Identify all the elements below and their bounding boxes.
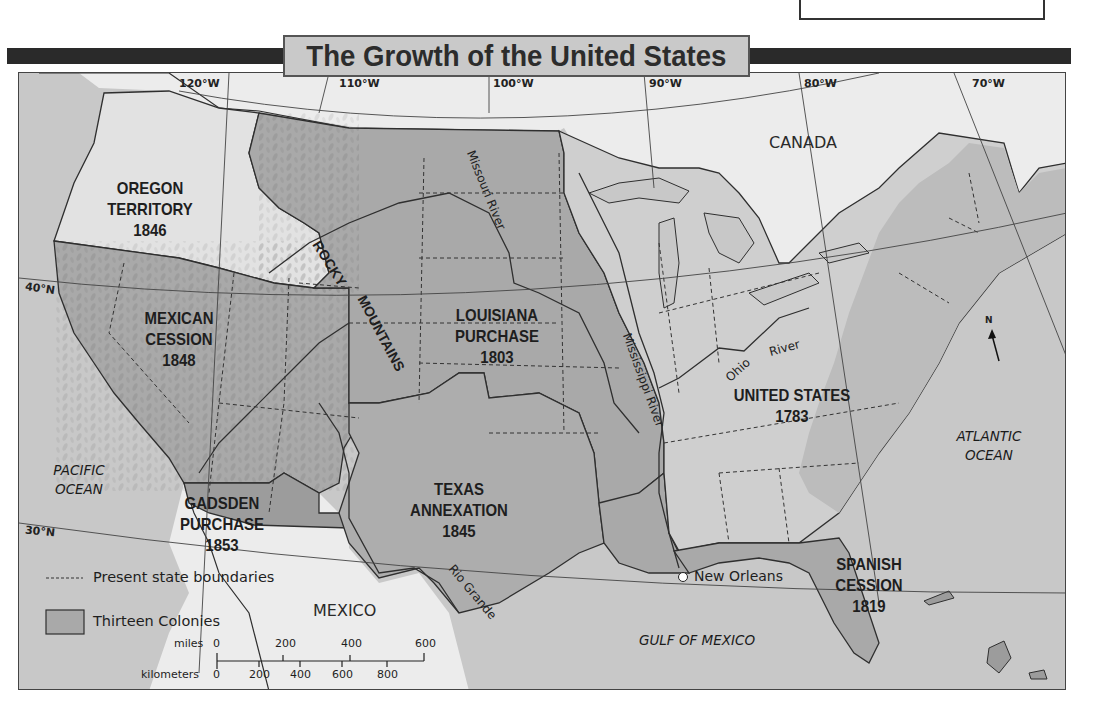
map-frame: 120°W 110°W 100°W 90°W 80°W 70°W 40°N 30… xyxy=(18,72,1066,690)
map-title: The Growth of the United States xyxy=(306,39,726,73)
region-label-spanish-cession: SPANISH CESSION 1819 xyxy=(825,554,913,617)
new-orleans-city-dot xyxy=(678,572,688,582)
lon-80w: 80°W xyxy=(804,77,837,90)
region-label-texas: TEXAS ANNEXATION 1845 xyxy=(402,479,516,542)
label-pacific-ocean: PACIFIC OCEAN xyxy=(39,461,119,499)
label-mexico: MEXICO xyxy=(313,601,376,620)
legend-item-thirteen-colonies: Thirteen Colonies xyxy=(93,613,220,629)
scale-km-600: 600 xyxy=(332,668,353,681)
legend-item-state-boundaries: Present state boundaries xyxy=(93,569,274,585)
lon-90w: 90°W xyxy=(649,77,682,90)
scale-mi-0: 0 xyxy=(213,637,220,650)
label-canada: CANADA xyxy=(769,133,837,152)
scale-mi-400: 400 xyxy=(341,637,362,650)
label-gulf-of-mexico: GULF OF MEXICO xyxy=(639,631,755,650)
corner-note-box: chase. xyxy=(799,0,1045,20)
map-title-box: The Growth of the United States xyxy=(283,35,750,77)
scale-km-200: 200 xyxy=(249,668,270,681)
lon-70w: 70°W xyxy=(972,77,1005,90)
region-label-oregon: OREGON TERRITORY 1846 xyxy=(102,178,199,241)
region-label-mexican-cession: MEXICAN CESSION 1848 xyxy=(135,308,223,371)
lon-100w: 100°W xyxy=(493,77,534,90)
region-label-united-states: UNITED STATES 1783 xyxy=(726,385,858,427)
scale-miles-label: miles xyxy=(174,637,203,650)
corner-note-text: chase. xyxy=(815,0,852,3)
lon-110w: 110°W xyxy=(339,77,380,90)
legend-box-symbol xyxy=(46,610,84,634)
compass-label: N xyxy=(985,315,993,325)
lon-120w: 120°W xyxy=(179,77,220,90)
scale-km-0: 0 xyxy=(213,668,220,681)
label-new-orleans: New Orleans xyxy=(694,568,783,584)
scale-km-800: 800 xyxy=(377,668,398,681)
region-label-louisiana: LOUISIANA PURCHASE 1803 xyxy=(444,305,550,368)
scale-mi-600: 600 xyxy=(415,637,436,650)
label-atlantic-ocean: ATLANTIC OCEAN xyxy=(944,427,1034,465)
scale-mi-200: 200 xyxy=(275,637,296,650)
scale-km-400: 400 xyxy=(290,668,311,681)
region-label-gadsden: GADSDEN PURCHASE 1853 xyxy=(174,493,271,556)
scale-km-label: kilometers xyxy=(141,668,199,681)
